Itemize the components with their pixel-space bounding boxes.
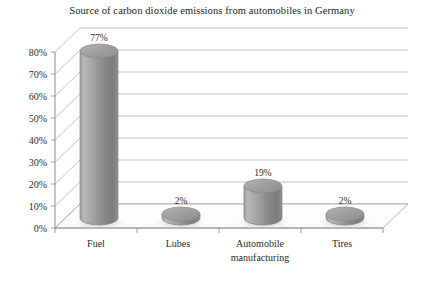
gridlines-back: [80, 28, 408, 204]
x-tick-label-lubes: Lubes: [166, 238, 191, 249]
y-tick-label: 10%: [29, 201, 47, 212]
y-tick-label: 30%: [29, 157, 47, 168]
x-tick-labels: Fuel Lubes Automobile manufacturing Tire…: [87, 238, 352, 263]
bar-fuel[interactable]: 77%: [71, 33, 127, 230]
gridlines-depth: [55, 28, 80, 228]
y-tick-label: 60%: [29, 91, 47, 102]
data-label-fuel: 77%: [90, 33, 108, 43]
y-tick-label: 70%: [29, 69, 47, 80]
y-axis: [51, 52, 55, 228]
data-label-tires: 2%: [339, 196, 352, 206]
chart-plot-area: 80% 70% 60% 50% 40% 30% 20% 10% 0% 77%: [0, 0, 424, 293]
x-tick-label-tires: Tires: [332, 238, 352, 249]
chart-container: Source of carbon dioxide emissions from …: [0, 0, 424, 293]
y-tick-label: 40%: [29, 135, 47, 146]
y-tick-label: 0%: [34, 223, 47, 234]
x-tick-label-fuel: Fuel: [87, 238, 105, 249]
y-tick-labels: 80% 70% 60% 50% 40% 30% 20% 10% 0%: [29, 47, 47, 234]
data-label-automobile-manufacturing: 19%: [254, 168, 272, 178]
y-tick-label: 80%: [29, 47, 47, 58]
data-label-lubes: 2%: [175, 196, 188, 206]
x-tick-label-automobile: Automobile: [236, 238, 284, 249]
y-tick-label: 50%: [29, 113, 47, 124]
y-tick-label: 20%: [29, 179, 47, 190]
x-tick-label-manufacturing: manufacturing: [231, 252, 289, 263]
bar-automobile-manufacturing[interactable]: 19%: [235, 168, 291, 230]
